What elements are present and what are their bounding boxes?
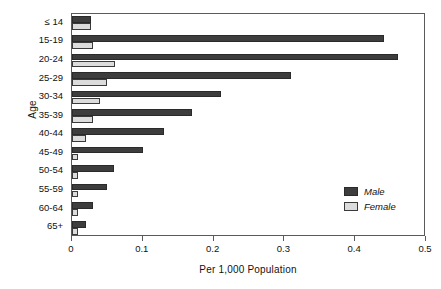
legend-label: Female [364,201,396,212]
bar-male [72,184,107,191]
y-axis-tick-label: 30-34 [39,91,63,101]
bar-male [72,54,398,61]
x-axis-tick-label: 0.4 [348,243,361,254]
bar-female [72,172,78,179]
legend-item: Female [344,201,416,213]
bar-female [72,42,93,49]
x-axis-tick [425,236,426,241]
x-axis-tick-label: 0 [68,243,73,254]
bar-male [72,16,91,23]
bar-female [72,98,100,105]
legend-swatch-female [344,202,358,211]
x-axis-tick-label: 0.5 [418,243,431,254]
y-axis-tick-label: ≤ 14 [45,17,63,27]
bar-female [72,61,115,68]
x-axis-ticks [71,236,425,242]
bar-chart: Age ≤ 1415-1920-2425-2930-3435-3940-4445… [0,0,441,289]
x-axis-tick [213,236,214,241]
y-axis-tick-label: 35-39 [39,110,63,120]
y-axis-tick-label: 15-19 [39,35,63,45]
bar-female [72,154,78,161]
y-axis-tick-label: 50-54 [39,165,63,175]
bar-female [72,209,78,216]
bar-male [72,147,143,154]
y-axis-tick-label: 20-24 [39,54,63,64]
y-axis-tick-label: 55-59 [39,184,63,194]
bar-male [72,165,114,172]
x-axis-tick-label: 0.1 [135,243,148,254]
y-axis-tick-label: 65+ [47,221,63,231]
bar-male [72,72,291,79]
bar-female [72,79,107,86]
bar-male [72,91,221,98]
x-axis-tick-labels: 00.10.20.30.40.5 [71,243,425,257]
legend-item: Male [344,186,416,198]
y-axis-tick-label: 45-49 [39,147,63,157]
x-axis-tick [283,236,284,241]
y-axis-tick-label: 40-44 [39,128,63,138]
x-axis-tick-label: 0.3 [277,243,290,254]
x-axis-tick [354,236,355,241]
bar-male [72,109,192,116]
legend: MaleFemale [344,186,416,216]
x-axis-tick [142,236,143,241]
y-axis-tick-label: 60-64 [39,203,63,213]
bar-female [72,135,86,142]
bar-female [72,228,78,235]
bar-male [72,221,86,228]
bar-male [72,202,93,209]
y-axis-tick-labels: ≤ 1415-1920-2425-2930-3435-3940-4445-495… [14,13,67,236]
x-axis-tick-label: 0.2 [206,243,219,254]
bar-male [72,35,384,42]
bar-male [72,128,164,135]
legend-label: Male [364,186,385,197]
bar-female [72,191,78,198]
x-axis-tick [71,236,72,241]
legend-swatch-male [344,187,358,196]
y-axis-tick-label: 25-29 [39,73,63,83]
bar-female [72,23,91,30]
bar-female [72,116,93,123]
x-axis-title: Per 1,000 Population [71,264,425,275]
